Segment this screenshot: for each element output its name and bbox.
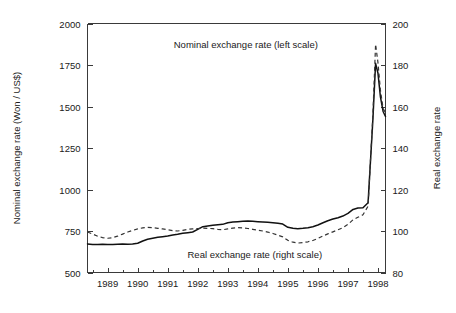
y-axis-left-title: Nominal exchange rate (Won / US$) — [11, 72, 22, 224]
y-right-tick-label: 180 — [393, 60, 409, 71]
y-left-tick-label: 1500 — [59, 102, 80, 113]
x-axis-ticks: 1989199019911992199319941995199619971998 — [94, 268, 389, 289]
y-right-tick-label: 140 — [393, 143, 409, 154]
x-axis-tick-label: 1996 — [307, 278, 328, 289]
y-axis-right-title: Real exchange rate — [431, 107, 442, 189]
plot-frame — [88, 24, 386, 273]
y-left-tick-label: 1000 — [59, 185, 80, 196]
series-line-nominal — [88, 63, 386, 244]
series-line-real — [88, 44, 386, 243]
y-right-tick-label: 80 — [393, 268, 404, 279]
series-layer — [88, 44, 386, 244]
y-left-tick-label: 1250 — [59, 143, 80, 154]
x-axis-tick-label: 1993 — [217, 278, 238, 289]
nominal-annotation: Nominal exchange rate (left scale) — [174, 39, 318, 50]
x-axis-tick-label: 1990 — [127, 278, 148, 289]
y-left-tick-label: 750 — [65, 226, 81, 237]
y-axis-right-ticks: 80100120140160180200 — [381, 19, 409, 279]
x-axis-tick-label: 1992 — [187, 278, 208, 289]
y-left-tick-label: 2000 — [59, 19, 80, 30]
exchange-rate-chart-figure: 50075010001250150017502000 8010012014016… — [0, 0, 456, 313]
real-annotation: Real exchange rate (right scale) — [187, 249, 322, 260]
y-right-tick-label: 100 — [393, 226, 409, 237]
x-axis-tick-label: 1991 — [157, 278, 178, 289]
y-right-tick-label: 120 — [393, 185, 409, 196]
x-axis-tick-label: 1989 — [97, 278, 118, 289]
x-axis-tick-label: 1995 — [277, 278, 298, 289]
x-axis-tick-label: 1998 — [367, 278, 388, 289]
x-axis-tick-label: 1994 — [247, 278, 268, 289]
chart-canvas: 50075010001250150017502000 8010012014016… — [0, 0, 456, 313]
y-left-tick-label: 1750 — [59, 60, 80, 71]
y-left-tick-label: 500 — [65, 268, 81, 279]
y-right-tick-label: 160 — [393, 102, 409, 113]
annotation-layer: Nominal exchange rate (left scale)Real e… — [174, 39, 322, 260]
y-right-tick-label: 200 — [393, 19, 409, 30]
x-axis-tick-label: 1997 — [337, 278, 358, 289]
